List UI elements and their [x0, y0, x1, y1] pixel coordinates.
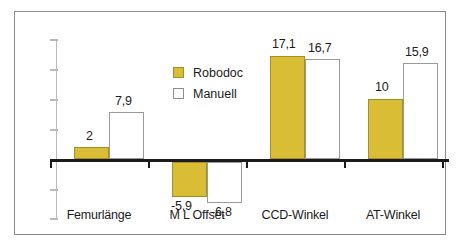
plot-area: 2 7,9 -5,9 -6,8 17,1 16,7 10 15,9 Femurl… [45, 36, 449, 228]
bar-robodoc-femurlaenge [74, 147, 109, 159]
bar-robodoc-at-winkel [368, 99, 403, 159]
bar-manuell-femurlaenge [109, 112, 144, 159]
chart-figure: 2 7,9 -5,9 -6,8 17,1 16,7 10 15,9 Femurl… [0, 0, 462, 250]
x-axis-separator [246, 162, 248, 168]
chart-legend: Robodoc Manuell [173, 62, 243, 104]
x-axis-separator [344, 162, 346, 168]
manuell-swatch-icon [173, 88, 184, 99]
legend-label-robodoc: Robodoc [193, 66, 243, 80]
value-label-manuell-ccd-winkel: 16,7 [308, 41, 332, 55]
bar-robodoc-ml-offset [172, 162, 207, 197]
value-label-manuell-at-winkel: 15,9 [405, 45, 429, 59]
y-axis-tick [50, 189, 58, 191]
category-label-at-winkel: AT-Winkel [344, 208, 442, 222]
y-axis-tick [50, 39, 58, 41]
legend-label-manuell: Manuell [193, 87, 237, 101]
bar-robodoc-ccd-winkel [270, 56, 305, 159]
legend-item-robodoc: Robodoc [173, 62, 243, 83]
bar-manuell-ml-offset [207, 162, 242, 203]
bar-manuell-at-winkel [403, 63, 438, 159]
value-label-robodoc-femurlaenge: 2 [86, 129, 93, 143]
x-axis-separator [442, 162, 444, 168]
bar-manuell-ccd-winkel [305, 59, 340, 159]
category-label-ml-offset: M L Offset [148, 208, 246, 222]
y-axis-tick [50, 129, 58, 131]
robodoc-swatch-icon [173, 67, 184, 78]
category-label-femurlaenge: Femurlänge [50, 208, 148, 222]
chart-frame: 2 7,9 -5,9 -6,8 17,1 16,7 10 15,9 Femurl… [14, 11, 446, 235]
value-label-robodoc-at-winkel: 10 [375, 80, 389, 94]
value-label-robodoc-ccd-winkel: 17,1 [272, 37, 296, 51]
x-axis-separator [50, 162, 52, 168]
legend-item-manuell: Manuell [173, 83, 243, 104]
zero-baseline [50, 159, 449, 162]
y-axis-tick [50, 69, 58, 71]
y-axis-tick [50, 99, 58, 101]
category-label-ccd-winkel: CCD-Winkel [246, 208, 344, 222]
x-axis-separator [148, 162, 150, 168]
value-label-manuell-femurlaenge: 7,9 [115, 94, 132, 108]
